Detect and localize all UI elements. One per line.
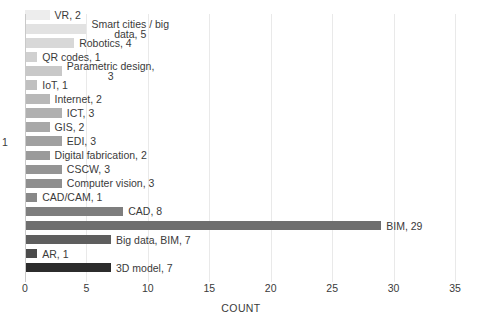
bar[interactable] xyxy=(25,179,62,189)
plot-area: VR, 2Smart cities / big data, 5Robotics,… xyxy=(25,14,455,282)
bar-value-label: Big data, BIM, 7 xyxy=(116,234,191,245)
bar-row: CAD/CAM, 1 xyxy=(25,193,455,203)
bar-value-label: IoT, 1 xyxy=(42,80,68,91)
bar-chart: VR, 2Smart cities / big data, 5Robotics,… xyxy=(0,0,482,329)
bar[interactable] xyxy=(25,52,37,62)
bar[interactable] xyxy=(25,122,50,132)
bar-row: BIM, 29 xyxy=(25,221,455,231)
bar-value-label: EDI, 3 xyxy=(67,136,96,147)
bar[interactable] xyxy=(25,221,381,231)
bar-row: EDI, 3 xyxy=(25,136,455,146)
bar-value-label: GIS, 2 xyxy=(55,122,85,133)
bar[interactable] xyxy=(25,66,62,76)
bar-value-label: CSCW, 3 xyxy=(67,164,110,175)
bar-value-label: ICT, 3 xyxy=(67,108,94,119)
bar-value-label: Digital fabrication, 2 xyxy=(55,150,147,161)
bar[interactable] xyxy=(25,10,50,20)
x-tick-label: 20 xyxy=(265,282,277,294)
bar-value-label: CAD, 8 xyxy=(128,206,162,217)
x-axis-ticks: 05101520253035 xyxy=(25,282,455,302)
bar-row: CSCW, 3 xyxy=(25,165,455,175)
bar-row: Internet, 2 xyxy=(25,94,455,104)
bar[interactable] xyxy=(25,151,50,161)
x-axis-title: COUNT xyxy=(0,302,482,314)
bar[interactable] xyxy=(25,207,123,217)
bar-value-label: VR, 2 xyxy=(55,10,81,21)
bar-value-label: AR, 1 xyxy=(42,248,68,259)
x-tick-label: 25 xyxy=(326,282,338,294)
bar-row: Parametric design, 3 xyxy=(25,66,455,76)
x-tick-label: 0 xyxy=(22,282,28,294)
stray-value-label: 1 xyxy=(2,137,8,148)
bar[interactable] xyxy=(25,108,62,118)
bar-value-label: 3D model, 7 xyxy=(116,262,173,273)
bar[interactable] xyxy=(25,24,86,34)
x-tick-label: 10 xyxy=(142,282,154,294)
bar-row: Robotics, 4 xyxy=(25,38,455,48)
x-tick-label: 35 xyxy=(449,282,461,294)
bar-value-label: Parametric design, 3 xyxy=(67,60,155,81)
bar-row: Computer vision, 3 xyxy=(25,179,455,189)
bar-value-label: Internet, 2 xyxy=(55,94,102,105)
bar[interactable] xyxy=(25,94,50,104)
bar[interactable] xyxy=(25,263,111,273)
bar-value-label: Robotics, 4 xyxy=(79,38,132,49)
bar-value-label: BIM, 29 xyxy=(386,220,422,231)
bar[interactable] xyxy=(25,38,74,48)
bar-value-label: Computer vision, 3 xyxy=(67,178,155,189)
bar-row: IoT, 1 xyxy=(25,80,455,90)
bar-row: AR, 1 xyxy=(25,249,455,259)
x-tick-label: 30 xyxy=(388,282,400,294)
bar-row: Big data, BIM, 7 xyxy=(25,235,455,245)
bar[interactable] xyxy=(25,249,37,259)
bar-row: ICT, 3 xyxy=(25,108,455,118)
gridline xyxy=(455,14,456,282)
x-tick-label: 5 xyxy=(84,282,90,294)
bar-value-label: CAD/CAM, 1 xyxy=(42,192,102,203)
bar-row: VR, 2 xyxy=(25,10,455,20)
bar[interactable] xyxy=(25,193,37,203)
y-axis-line xyxy=(25,14,26,282)
bar[interactable] xyxy=(25,80,37,90)
bar-row: Digital fabrication, 2 xyxy=(25,151,455,161)
bar[interactable] xyxy=(25,165,62,175)
bar-row: CAD, 8 xyxy=(25,207,455,217)
bar-row: GIS, 2 xyxy=(25,122,455,132)
x-tick-label: 15 xyxy=(203,282,215,294)
bar[interactable] xyxy=(25,235,111,245)
bar-row: 3D model, 7 xyxy=(25,263,455,273)
bar-row: Smart cities / big data, 5 xyxy=(25,24,455,34)
bar[interactable] xyxy=(25,136,62,146)
